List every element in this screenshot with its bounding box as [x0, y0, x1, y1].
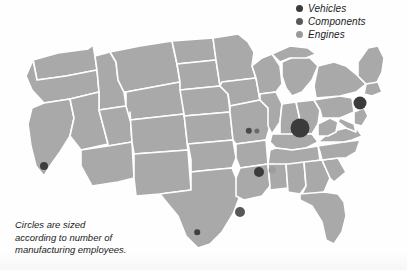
bubble-vehicles-2	[254, 167, 264, 177]
bubble-components-3	[235, 207, 245, 217]
legend: Vehicles Components Engines	[296, 2, 404, 41]
bubble-engines-8	[269, 167, 276, 174]
legend-label-engines: Engines	[308, 29, 345, 40]
legend-label-vehicles: Vehicles	[308, 3, 346, 14]
caption: Circles are sized according to number of…	[15, 219, 180, 257]
legend-item-vehicles[interactable]: Vehicles	[296, 2, 404, 14]
bubble-vehicles-7	[194, 229, 200, 235]
legend-dot-engines	[296, 31, 303, 38]
legend-item-components[interactable]: Components	[296, 15, 404, 27]
bubble-vehicles-0	[291, 119, 310, 138]
caption-line-3: manufacturing employees.	[15, 244, 180, 257]
bubble-map-figure: Vehicles Components Engines Circles are …	[0, 0, 407, 270]
caption-line-2: according to number of	[15, 232, 180, 245]
state-shapes	[26, 34, 384, 248]
legend-dot-vehicles	[296, 5, 303, 12]
legend-label-components: Components	[308, 16, 366, 27]
caption-line-1: Circles are sized	[15, 219, 180, 232]
legend-item-engines[interactable]: Engines	[296, 28, 404, 40]
bubble-vehicles-1	[354, 97, 367, 110]
legend-dot-components	[296, 18, 303, 25]
bubble-vehicles-4	[40, 162, 48, 170]
